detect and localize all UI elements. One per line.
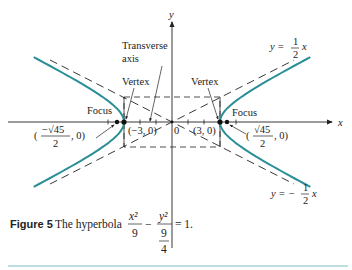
figure-number: Figure 5 (10, 218, 53, 230)
origin-label: 0 (174, 125, 179, 136)
transverse-axis-pointer (150, 66, 162, 121)
focus-left-tail: , 0) (71, 130, 86, 142)
svg-text:9: 9 (132, 227, 138, 239)
focus-right-coordinate: ( √45 2 , 0) (246, 124, 289, 149)
vertex-left-pointer (126, 88, 134, 119)
svg-text:y =: y = (269, 41, 284, 52)
svg-text:4: 4 (161, 243, 167, 255)
svg-text:1: 1 (293, 36, 298, 47)
svg-text:2: 2 (293, 49, 298, 60)
caption-text: The hyperbola (55, 218, 122, 231)
focus-left-denominator: 2 (53, 138, 58, 149)
svg-text:(: ( (34, 130, 38, 142)
vertex-right-dot (217, 119, 222, 124)
svg-text:y = −: y = − (270, 188, 295, 199)
svg-text:1: 1 (303, 182, 308, 193)
svg-text:y²: y² (158, 210, 168, 223)
focus-right-numerator: √45 (254, 124, 270, 135)
focus-left-numerator: −√45 (42, 124, 64, 135)
svg-text:9: 9 (161, 227, 167, 239)
hyperbola-figure: x y Transverse axis Vertex Vertex Focus … (0, 0, 352, 270)
svg-text:x: x (301, 41, 307, 52)
svg-text:(: ( (246, 130, 250, 142)
focus-left-pointer (96, 125, 114, 138)
svg-text:x²: x² (128, 210, 138, 222)
focus-right-dot (225, 120, 229, 124)
figure-caption: Figure 5 The hyperbola x² 9 − y² 9 4 = 1… (10, 210, 193, 255)
vertex-right-coordinate: (3, 0) (193, 125, 216, 137)
origin-dot (171, 121, 174, 124)
focus-right-label: Focus (232, 107, 257, 118)
focus-left-coordinate: ( −√45 2 , 0) (34, 124, 86, 149)
vertex-left-label: Vertex (122, 76, 150, 87)
y-axis-label: y (168, 9, 174, 20)
svg-text:2: 2 (303, 195, 308, 206)
x-axis-label: x (337, 117, 343, 128)
vertex-right-label: Vertex (191, 76, 219, 87)
svg-text:x: x (311, 188, 317, 199)
svg-text:= 1.: = 1. (175, 218, 193, 230)
transverse-axis-label-line2: axis (122, 53, 139, 64)
focus-right-pointer (230, 125, 246, 134)
focus-left-label: Focus (87, 105, 112, 116)
transverse-axis-label-line1: Transverse (122, 40, 168, 51)
vertex-left-coordinate: (−3, 0) (128, 125, 157, 137)
vertex-left-dot (121, 119, 126, 124)
asymptote-positive-equation: y = 1 2 x (269, 36, 307, 60)
svg-text:−: − (145, 218, 152, 230)
vertex-right-pointer (208, 88, 218, 119)
focus-right-tail: , 0) (274, 130, 289, 142)
focus-left-dot (115, 120, 119, 124)
focus-right-denominator: 2 (260, 138, 265, 149)
